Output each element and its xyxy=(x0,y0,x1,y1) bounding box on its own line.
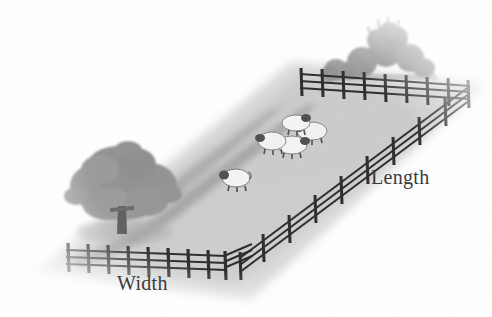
label-width: Width xyxy=(117,272,168,295)
paper-grain xyxy=(0,0,492,317)
label-length: Length xyxy=(371,166,429,189)
field-illustration: Length Width xyxy=(0,0,492,317)
illustration-canvas xyxy=(0,0,492,317)
